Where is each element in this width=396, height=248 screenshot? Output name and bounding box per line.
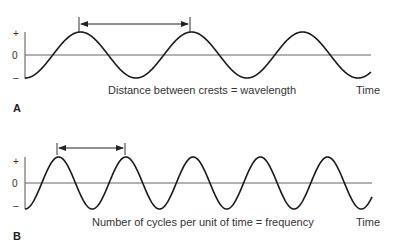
caption: Number of cycles per unit of time = freq… bbox=[92, 216, 314, 228]
y-tick-plus: + bbox=[13, 28, 19, 39]
y-tick-plus: + bbox=[13, 156, 19, 167]
wave-diagram: + 0 – Distance between crests = waveleng… bbox=[0, 0, 396, 248]
panel-b: + 0 – Number of cycles per unit of time … bbox=[12, 143, 380, 242]
x-axis-label: Time bbox=[356, 216, 380, 228]
y-tick-zero: 0 bbox=[12, 50, 18, 61]
panel-a: + 0 – Distance between crests = waveleng… bbox=[12, 17, 380, 114]
y-tick-minus: – bbox=[13, 200, 19, 211]
panel-label: B bbox=[13, 230, 21, 242]
x-axis-label: Time bbox=[356, 84, 380, 96]
y-tick-zero: 0 bbox=[12, 178, 18, 189]
panel-label: A bbox=[13, 102, 21, 114]
y-tick-minus: – bbox=[13, 72, 19, 83]
caption: Distance between crests = wavelength bbox=[108, 84, 296, 96]
